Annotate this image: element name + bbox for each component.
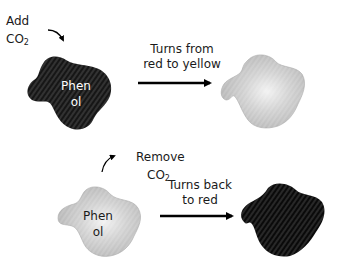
co2-text: CO <box>6 32 24 46</box>
phenol-label-line1: Phen <box>56 78 96 94</box>
phenol-label-2-line2: ol <box>78 224 118 240</box>
arrow-label-2: Turns back to red <box>160 178 240 208</box>
remove-text: Remove <box>136 150 185 164</box>
remove-label: Remove <box>136 150 185 165</box>
arrow-label-1: Turns from red to yellow <box>136 42 228 72</box>
phenol-label-1: Phen ol <box>56 78 96 110</box>
co2-label-1: CO2 <box>6 32 29 50</box>
phenol-label-line2: ol <box>56 94 96 110</box>
add-text: Add <box>6 14 29 28</box>
add-co2-curved-arrow-icon <box>48 30 63 40</box>
add-label: Add <box>6 14 29 29</box>
arrow-label-2-line1: Turns back <box>160 178 240 193</box>
remove-co2-curved-arrow-icon <box>102 156 114 172</box>
arrow-label-1-line2: red to yellow <box>136 57 228 72</box>
phenol-label-2: Phen ol <box>78 208 118 240</box>
co2-subscript: 2 <box>24 38 29 47</box>
phenol-label-2-line1: Phen <box>78 208 118 224</box>
arrow-label-1-line1: Turns from <box>136 42 228 57</box>
arrow-label-2-line2: to red <box>160 193 240 208</box>
